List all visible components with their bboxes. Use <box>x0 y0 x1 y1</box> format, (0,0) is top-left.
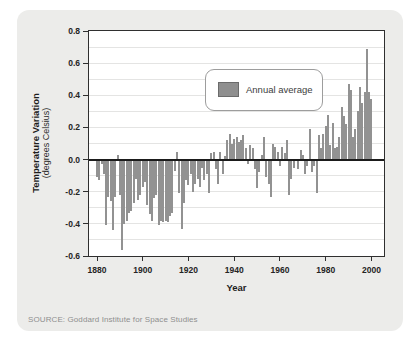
y-axis-tick <box>83 31 88 32</box>
x-axis-tick <box>97 256 98 261</box>
bar <box>370 99 372 160</box>
gridline <box>89 63 384 64</box>
x-axis-tick-label: 1900 <box>126 265 160 275</box>
gridline <box>89 47 384 48</box>
legend: Annual average <box>205 69 323 111</box>
y-axis-tick-label: -0.4 <box>47 219 80 229</box>
source-caption: SOURCE: Goddard Institute for Space Stud… <box>28 315 198 324</box>
y-axis-title-main: Temperature Variation <box>30 93 41 193</box>
y-axis-tick <box>83 95 88 96</box>
bar <box>258 160 260 173</box>
bar <box>316 160 318 194</box>
legend-label: Annual average <box>246 84 313 95</box>
y-axis-tick <box>83 191 88 192</box>
x-axis-tick-label: 1880 <box>80 265 114 275</box>
y-axis-tick-label: 0.0 <box>47 155 80 165</box>
y-axis-tick <box>83 159 88 160</box>
y-axis-title-sub: (degrees Celsius) <box>41 93 51 193</box>
bar <box>263 137 265 160</box>
y-axis-tick-label: 0.6 <box>47 58 80 68</box>
y-axis-tick <box>83 223 88 224</box>
bar <box>293 160 295 168</box>
plot-area: 0.80.60.40.20.0-0.2-0.4-0.61880190019201… <box>88 30 385 257</box>
bar <box>208 160 210 194</box>
x-axis-tick <box>234 256 235 261</box>
x-axis-tick <box>142 256 143 261</box>
x-axis-tick-label: 1920 <box>171 265 205 275</box>
x-axis-tick <box>371 256 372 261</box>
x-axis-tick-label: 1960 <box>263 265 297 275</box>
x-axis-tick-label: 2000 <box>354 265 388 275</box>
y-axis-title: Temperature Variation (degrees Celsius) <box>30 93 51 193</box>
bar <box>286 140 288 159</box>
plot-canvas: 0.80.60.40.20.0-0.2-0.4-0.61880190019201… <box>89 31 384 256</box>
y-axis-tick <box>83 256 88 257</box>
y-axis-tick-label: 0.4 <box>47 90 80 100</box>
y-axis-tick-label: 0.2 <box>47 122 80 132</box>
figure-card: Temperature Variation (degrees Celsius) … <box>17 10 403 331</box>
bar <box>297 160 299 170</box>
gridline <box>89 239 384 240</box>
gridline <box>89 223 384 224</box>
y-axis-tick-label: -0.6 <box>47 251 80 261</box>
gridline <box>89 207 384 208</box>
bar <box>217 160 219 184</box>
x-axis-title: Year <box>88 282 385 293</box>
bar <box>309 129 311 160</box>
legend-swatch-icon <box>218 82 239 97</box>
x-axis-tick-label: 1940 <box>217 265 251 275</box>
x-axis-tick-label: 1980 <box>309 265 343 275</box>
y-axis-tick-label: -0.2 <box>47 187 80 197</box>
bar <box>270 160 272 197</box>
x-axis-tick <box>188 256 189 261</box>
y-axis-tick-label: 0.8 <box>47 26 80 36</box>
y-axis-tick <box>83 127 88 128</box>
bar <box>114 160 116 197</box>
bar <box>174 160 176 171</box>
x-axis-tick <box>325 256 326 261</box>
x-axis-tick <box>279 256 280 261</box>
bar <box>222 160 224 174</box>
zero-baseline <box>89 159 384 161</box>
y-axis-tick <box>83 63 88 64</box>
